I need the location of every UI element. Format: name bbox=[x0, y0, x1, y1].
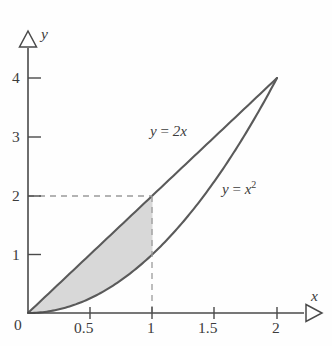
y-tick-label-2: 2 bbox=[12, 188, 20, 204]
figure-container: y x 0 0.5 1 1.5 2 1 2 3 4 y = 2x y = x2 bbox=[0, 0, 332, 346]
y-tick-label-3: 3 bbox=[12, 129, 20, 145]
curve-label-line-lhs: y bbox=[150, 123, 157, 139]
x-tick-label-1.5: 1.5 bbox=[198, 320, 217, 336]
curve-label-parabola: y = x2 bbox=[222, 182, 256, 197]
y-axis-arrowhead-icon bbox=[20, 31, 37, 47]
curve-label-line-eq: = bbox=[157, 123, 173, 139]
curve-label-parabola-lhs: y bbox=[222, 181, 229, 197]
curve-label-line-rhs: 2x bbox=[173, 123, 187, 139]
curve-label-parabola-exponent: 2 bbox=[251, 179, 256, 190]
y-tick-label-4: 4 bbox=[12, 70, 20, 86]
x-tick-label-2: 2 bbox=[272, 320, 280, 336]
origin-tick-label: 0 bbox=[14, 317, 22, 333]
x-axis-arrowhead-icon bbox=[306, 305, 322, 322]
y-tick-label-1: 1 bbox=[12, 247, 20, 263]
curve-label-line: y = 2x bbox=[150, 124, 187, 139]
x-axis-label: x bbox=[311, 288, 318, 304]
x-tick-label-0.5: 0.5 bbox=[74, 320, 93, 336]
x-tick-label-1: 1 bbox=[147, 320, 155, 336]
curve-label-parabola-eq: = bbox=[229, 181, 245, 197]
chart-plot bbox=[0, 0, 332, 346]
y-axis-label: y bbox=[41, 26, 48, 42]
